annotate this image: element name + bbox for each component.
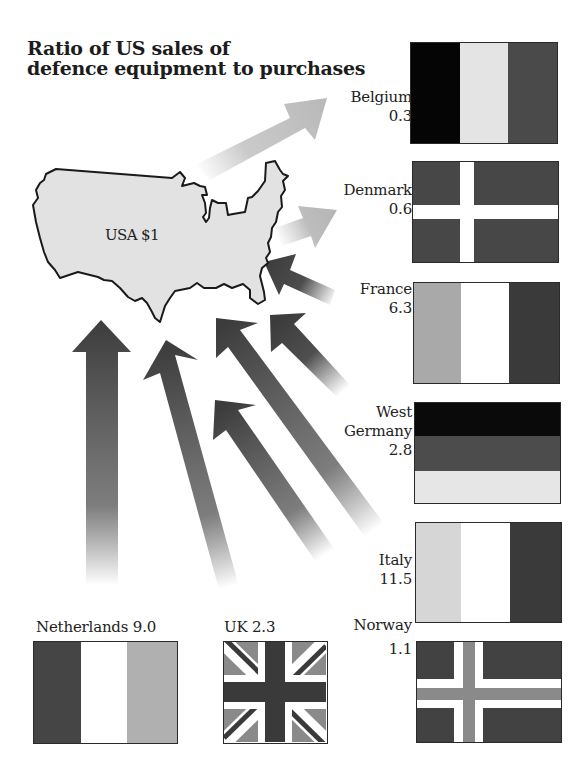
label-netherlands: Netherlands 9.0 — [36, 618, 156, 637]
label-belgium: Belgium 0.3 — [350, 88, 412, 126]
country-name-italy: Italy — [379, 551, 412, 570]
country-name-west-germany-line1: West — [344, 403, 412, 422]
ratio-norway: 1.1 — [354, 640, 412, 659]
flag-italy — [415, 522, 562, 623]
label-norway: Norway 1.1 — [354, 616, 412, 659]
flag-france — [413, 282, 560, 384]
label-west-germany: West Germany 2.8 — [344, 403, 412, 460]
country-name-west-germany-line2: Germany — [344, 422, 412, 441]
flag-uk — [223, 641, 328, 744]
ratio-belgium: 0.3 — [350, 107, 412, 126]
flag-denmark — [412, 161, 559, 263]
country-name-denmark: Denmark — [343, 181, 412, 200]
label-uk: UK 2.3 — [224, 618, 275, 637]
country-name-belgium: Belgium — [350, 88, 412, 107]
ratio-france: 6.3 — [360, 299, 412, 318]
ratio-denmark: 0.6 — [343, 200, 412, 219]
flag-belgium — [410, 42, 558, 144]
ratio-west-germany: 2.8 — [344, 441, 412, 460]
label-france: France 6.3 — [360, 280, 412, 318]
label-italy: Italy 11.5 — [379, 551, 412, 589]
flag-norway — [416, 641, 562, 743]
flag-netherlands — [33, 641, 178, 744]
usa-label: USA $1 — [105, 226, 159, 244]
ratio-italy: 11.5 — [379, 570, 412, 589]
flag-west-germany — [414, 402, 561, 504]
country-name-france: France — [360, 280, 412, 299]
country-name-norway: Norway — [354, 616, 412, 635]
label-denmark: Denmark 0.6 — [343, 181, 412, 219]
